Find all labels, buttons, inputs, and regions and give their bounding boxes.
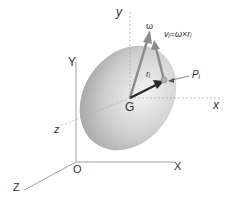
rigid-body-diagram: Y X Z O y x z G ω vᵢ=ω×rᵢ rᵢ Pᵢ bbox=[0, 0, 232, 210]
fixed-z-axis bbox=[24, 162, 76, 190]
body-z-label: z bbox=[54, 124, 60, 135]
origin-label: O bbox=[73, 164, 82, 175]
fixed-z-label: Z bbox=[13, 182, 20, 193]
body-x-label: x bbox=[213, 99, 219, 111]
fixed-x-label: X bbox=[174, 161, 181, 172]
point-pi-label: Pᵢ bbox=[192, 70, 200, 80]
omega-label: ω bbox=[146, 22, 153, 31]
diagram-canvas bbox=[0, 0, 232, 210]
center-label: G bbox=[125, 101, 134, 113]
position-vector-label: rᵢ bbox=[146, 70, 150, 79]
fixed-y-label: Y bbox=[68, 56, 76, 68]
body-y-label: y bbox=[116, 6, 122, 18]
velocity-equation-label: vᵢ=ω×rᵢ bbox=[164, 30, 191, 39]
point-pi bbox=[161, 77, 167, 83]
